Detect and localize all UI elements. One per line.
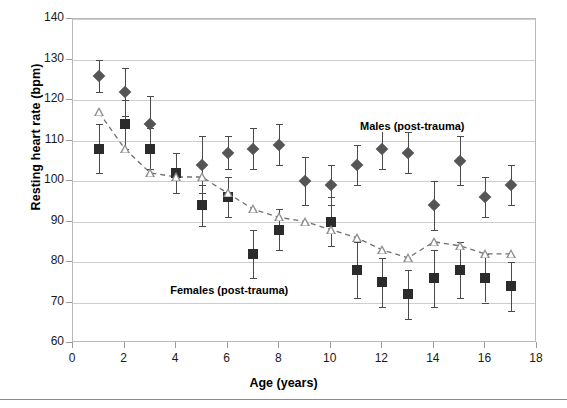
males-error-cap <box>482 217 489 218</box>
data-point-female <box>274 225 284 235</box>
data-point-female <box>480 273 490 283</box>
data-point-female <box>506 281 516 291</box>
females-error-cap <box>173 193 180 194</box>
x-tick-label: 8 <box>263 351 293 365</box>
males-error-cap <box>96 92 103 93</box>
males-error-cap <box>225 169 232 170</box>
x-tick-label: 0 <box>57 351 87 365</box>
x-tick-mark <box>433 342 434 348</box>
x-tick-mark <box>227 342 228 348</box>
x-tick-mark <box>175 342 176 348</box>
gridline <box>73 19 535 20</box>
males-error-cap <box>96 60 103 61</box>
males-error-cap <box>379 169 386 170</box>
y-tick-mark <box>66 140 72 141</box>
males-error-cap <box>405 132 412 133</box>
females-error-cap <box>328 246 335 247</box>
data-point-female <box>197 200 207 210</box>
males-error-cap <box>405 173 412 174</box>
x-tick-mark <box>72 342 73 348</box>
y-tick-label: 70 <box>28 294 64 308</box>
annotation-females: Females (post-trauma) <box>168 284 290 296</box>
data-point-female <box>94 144 104 154</box>
chart-figure: Resting heart rate (bpm) Age (years) 607… <box>0 0 567 408</box>
x-tick-label: 10 <box>315 351 345 365</box>
x-tick-mark <box>330 342 331 348</box>
data-point-female <box>352 265 362 275</box>
males-error-cap <box>276 124 283 125</box>
y-tick-label: 110 <box>28 132 64 146</box>
x-tick-mark <box>381 342 382 348</box>
gridline <box>73 100 535 101</box>
males-error-cap <box>276 165 283 166</box>
y-tick-label: 80 <box>28 253 64 267</box>
x-tick-label: 2 <box>109 351 139 365</box>
females-error-cap <box>482 303 489 304</box>
males-error-cap <box>147 96 154 97</box>
males-error-cap <box>508 165 515 166</box>
x-tick-label: 14 <box>418 351 448 365</box>
y-tick-mark <box>66 261 72 262</box>
females-error-cap <box>431 250 438 251</box>
x-tick-mark <box>536 342 537 348</box>
y-tick-mark <box>66 18 72 19</box>
x-tick-label: 6 <box>212 351 242 365</box>
males-error-cap <box>250 128 257 129</box>
data-point-female <box>120 119 130 129</box>
females-error-cap <box>276 250 283 251</box>
males-error-cap <box>122 68 129 69</box>
males-error-cap <box>431 230 438 231</box>
males-error-cap <box>250 169 257 170</box>
data-point-female <box>455 265 465 275</box>
footer-divider <box>0 399 567 400</box>
annotation-males: Males (post-trauma) <box>358 120 467 132</box>
males-error-cap <box>354 185 361 186</box>
y-tick-label: 60 <box>28 334 64 348</box>
data-point-female <box>429 273 439 283</box>
males-error-cap <box>431 181 438 182</box>
females-error-cap <box>276 209 283 210</box>
males-error-cap <box>354 145 361 146</box>
females-error-cap <box>250 278 257 279</box>
males-error-cap <box>508 205 515 206</box>
y-tick-label: 100 <box>28 172 64 186</box>
females-error-cap <box>199 226 206 227</box>
females-error-cap <box>225 177 232 178</box>
females-error-cap <box>405 270 412 271</box>
males-error-cap <box>225 136 232 137</box>
males-error-cap <box>302 157 309 158</box>
y-tick-mark <box>66 221 72 222</box>
females-error-cap <box>508 262 515 263</box>
y-tick-mark <box>66 180 72 181</box>
females-error-cap <box>225 217 232 218</box>
females-error-cap <box>250 230 257 231</box>
x-tick-label: 16 <box>469 351 499 365</box>
y-tick-label: 140 <box>28 10 64 24</box>
females-error-cap <box>328 197 335 198</box>
females-error-cap <box>354 242 361 243</box>
males-error-cap <box>328 165 335 166</box>
x-tick-mark <box>484 342 485 348</box>
females-error-cap <box>379 307 386 308</box>
y-tick-mark <box>66 302 72 303</box>
females-error-cap <box>354 298 361 299</box>
males-error-cap <box>482 177 489 178</box>
y-tick-label: 90 <box>28 213 64 227</box>
females-error-cap <box>96 173 103 174</box>
males-error-cap <box>199 136 206 137</box>
x-tick-label: 4 <box>160 351 190 365</box>
females-error-cap <box>199 185 206 186</box>
data-point-female <box>403 289 413 299</box>
y-tick-mark <box>66 99 72 100</box>
males-error-cap <box>457 136 464 137</box>
females-error-cap <box>457 298 464 299</box>
plot-area <box>72 18 536 342</box>
x-tick-mark <box>124 342 125 348</box>
females-error-cap <box>431 307 438 308</box>
gridline <box>73 141 535 142</box>
x-axis-title: Age (years) <box>0 376 567 390</box>
y-tick-label: 120 <box>28 91 64 105</box>
males-error-cap <box>457 185 464 186</box>
x-tick-mark <box>278 342 279 348</box>
x-tick-label: 12 <box>366 351 396 365</box>
